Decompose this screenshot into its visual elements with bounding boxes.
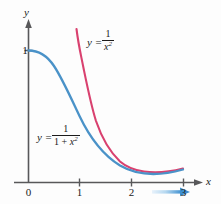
equation-lower-fraction: 1 1 + x2 bbox=[52, 124, 80, 147]
equation-upper-fraction: 1 x2 bbox=[102, 29, 114, 52]
equation-lower-den-prefix: 1 + bbox=[54, 136, 70, 147]
x-tick-label-1: 1 bbox=[74, 186, 85, 198]
equation-label-one-over-x-squared: y = 1 x2 bbox=[87, 31, 114, 54]
x-tick-label-3: 3 bbox=[178, 186, 189, 198]
x-axis bbox=[14, 179, 203, 187]
equation-upper-lhs: y = bbox=[87, 37, 102, 48]
equation-upper-den-exponent: 2 bbox=[109, 40, 113, 48]
x-tick-label-2: 2 bbox=[126, 186, 137, 198]
y-axis-label: y bbox=[24, 6, 29, 18]
y-tick-label-1: 1 bbox=[20, 44, 30, 56]
figure-container: y x 1 0 1 2 3 y = 1 x2 y = 1 1 + x2 bbox=[0, 0, 221, 204]
equation-lower-denominator: 1 + x2 bbox=[52, 136, 80, 147]
x-tick-label-0: 0 bbox=[23, 186, 34, 198]
curve-one-over-one-plus-x-squared bbox=[29, 51, 184, 174]
equation-upper-denominator: x2 bbox=[102, 41, 114, 52]
equation-label-one-over-one-plus-x-squared: y = 1 1 + x2 bbox=[37, 126, 80, 149]
equation-lower-lhs: y = bbox=[37, 132, 52, 143]
x-axis-label: x bbox=[206, 175, 211, 187]
equation-lower-den-exponent: 2 bbox=[74, 135, 78, 143]
